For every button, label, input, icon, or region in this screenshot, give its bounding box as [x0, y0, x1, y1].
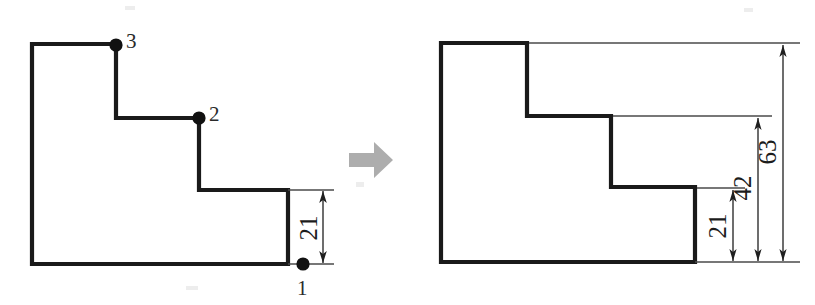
left-figure-group: 21 1 2 3: [32, 29, 334, 300]
vertex-1-label: 1: [297, 276, 308, 300]
vertex-2-label: 2: [209, 102, 220, 126]
left-dimension-21: 21: [288, 190, 334, 264]
vertex-3-dot: [109, 38, 122, 51]
right-dim21-value-label: 21: [704, 214, 731, 239]
left-vertex-marker-3: 3: [109, 29, 136, 53]
right-figure-group: 21 42 63: [441, 43, 800, 262]
vertex-2-dot: [192, 111, 205, 124]
diagram-svg: 21 1 2 3: [0, 0, 815, 305]
vertex-1-dot: [296, 257, 309, 270]
left-vertex-marker-1: 1: [296, 257, 309, 300]
left-stepped-profile-outline: [32, 44, 288, 264]
left-vertex-marker-2: 2: [192, 102, 219, 126]
right-dimension-63: 63: [529, 43, 800, 261]
rightward-transform-arrow-icon: [349, 142, 393, 178]
right-dim42-value-label: 42: [729, 176, 756, 201]
right-dim63-value-label: 63: [754, 140, 781, 165]
diagram-canvas: 21 1 2 3: [0, 0, 815, 305]
vertex-3-label: 3: [126, 29, 137, 53]
right-stepped-profile-outline: [441, 43, 695, 262]
left-dim21-value-label: 21: [295, 216, 322, 241]
